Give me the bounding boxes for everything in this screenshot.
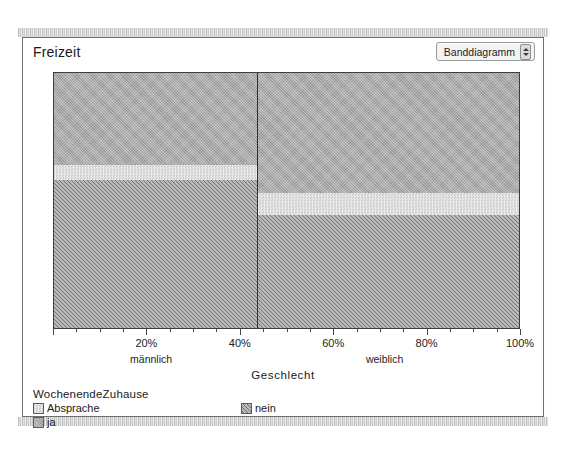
x-tick bbox=[380, 329, 381, 332]
legend-item-absprache[interactable]: Absprache bbox=[33, 402, 100, 414]
x-tick bbox=[497, 329, 498, 332]
x-tick bbox=[473, 329, 474, 332]
legend-label-nein: nein bbox=[255, 402, 276, 414]
legend-item-nein[interactable]: nein bbox=[241, 402, 276, 414]
legend: WochenendeZuhause Absprache nein ja bbox=[33, 388, 533, 430]
legend-label-ja: ja bbox=[47, 416, 56, 428]
bar-segment-ja[interactable] bbox=[54, 73, 257, 165]
x-tick bbox=[216, 329, 217, 332]
x-tick bbox=[450, 329, 451, 332]
x-tick bbox=[170, 329, 171, 332]
x-tick bbox=[240, 329, 241, 335]
legend-swatch-absprache-icon bbox=[33, 403, 44, 414]
legend-title: WochenendeZuhause bbox=[33, 388, 533, 400]
chart-panel: Freizeit Banddiagramm 20%40%60%80%100%mä… bbox=[22, 37, 544, 417]
bar-segment-absprache[interactable] bbox=[54, 165, 257, 180]
x-tick bbox=[427, 329, 428, 335]
x-tick-label: 100% bbox=[506, 337, 534, 349]
bar-column-weiblich[interactable] bbox=[257, 73, 520, 328]
x-tick-label: 20% bbox=[135, 337, 157, 349]
x-tick bbox=[100, 329, 101, 332]
x-tick bbox=[76, 329, 77, 332]
x-tick bbox=[193, 329, 194, 332]
x-tick bbox=[146, 329, 147, 335]
x-tick-label: 60% bbox=[322, 337, 344, 349]
bar-segment-nein[interactable] bbox=[54, 180, 257, 328]
x-axis-title: Geschlecht bbox=[23, 369, 543, 381]
plot-area bbox=[53, 72, 520, 329]
category-label: männlich bbox=[130, 353, 172, 365]
x-tick bbox=[53, 329, 54, 335]
bar-segment-ja[interactable] bbox=[257, 73, 520, 193]
x-tick bbox=[123, 329, 124, 332]
chart-type-dropdown[interactable]: Banddiagramm bbox=[436, 42, 535, 61]
chart-window: Freizeit Banddiagramm 20%40%60%80%100%mä… bbox=[18, 28, 548, 426]
legend-swatch-nein-icon bbox=[241, 403, 252, 414]
stepper-arrows-icon[interactable] bbox=[520, 44, 531, 60]
legend-swatch-ja-icon bbox=[33, 417, 44, 428]
x-tick bbox=[357, 329, 358, 332]
x-tick bbox=[403, 329, 404, 332]
x-tick bbox=[333, 329, 334, 335]
window-top-texture bbox=[18, 28, 548, 37]
plot-wrapper: 20%40%60%80%100%männlichweiblich Geschle… bbox=[23, 66, 543, 416]
legend-label-absprache: Absprache bbox=[47, 402, 100, 414]
legend-row: Absprache nein bbox=[33, 402, 533, 416]
chart-header: Freizeit Banddiagramm bbox=[23, 38, 543, 66]
x-tick bbox=[310, 329, 311, 332]
bar-segment-absprache[interactable] bbox=[257, 193, 520, 215]
x-tick-label: 80% bbox=[416, 337, 438, 349]
x-axis bbox=[53, 329, 520, 336]
x-tick bbox=[263, 329, 264, 332]
bar-column-maennlich[interactable] bbox=[54, 73, 257, 328]
legend-row: ja bbox=[33, 416, 533, 430]
legend-item-ja[interactable]: ja bbox=[33, 416, 56, 428]
category-label: weiblich bbox=[366, 353, 403, 365]
chart-type-value: Banddiagramm bbox=[444, 46, 515, 58]
bar-segment-nein[interactable] bbox=[257, 215, 520, 328]
category-divider bbox=[257, 73, 258, 328]
page-title: Freizeit bbox=[33, 44, 81, 60]
x-tick-label: 40% bbox=[229, 337, 251, 349]
x-tick bbox=[287, 329, 288, 332]
x-tick bbox=[520, 329, 521, 335]
